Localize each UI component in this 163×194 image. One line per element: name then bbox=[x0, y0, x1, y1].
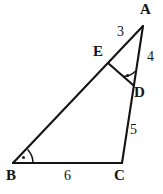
vertex-label-B: B bbox=[6, 168, 16, 183]
length-label-AD: 4 bbox=[147, 50, 154, 64]
segment-ED bbox=[108, 63, 133, 85]
vertex-label-A: A bbox=[140, 2, 151, 17]
geometry-figure: A B C D E 3 4 5 6 bbox=[0, 0, 163, 194]
length-label-DC: 5 bbox=[130, 123, 137, 137]
vertex-label-E: E bbox=[93, 44, 103, 59]
vertex-label-C: C bbox=[114, 168, 125, 183]
length-label-AE: 3 bbox=[117, 25, 124, 39]
vertex-label-D: D bbox=[134, 85, 145, 100]
angle-mark-D bbox=[122, 72, 134, 77]
segment-BA bbox=[13, 26, 143, 163]
length-label-BC: 6 bbox=[64, 169, 71, 183]
